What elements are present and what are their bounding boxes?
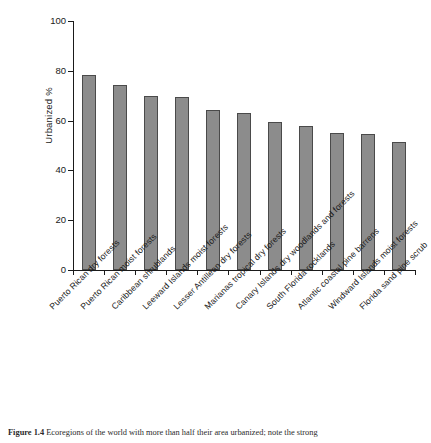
y-tick-label: 20	[36, 220, 66, 221]
x-tick-mark	[415, 271, 416, 275]
y-axis-title: Urbanized %	[43, 66, 54, 166]
y-tick-label: 60	[36, 121, 66, 122]
bar	[175, 97, 189, 270]
x-tick-mark	[353, 271, 354, 275]
caption-text: Ecoregions of the world with more than h…	[46, 428, 317, 437]
x-tick-mark	[135, 271, 136, 275]
x-tick-mark	[197, 271, 198, 275]
y-tick-label: 40	[36, 170, 66, 171]
x-tick-mark	[291, 271, 292, 275]
y-tick-label: 0	[36, 270, 66, 271]
caption-label: Figure 1.4	[8, 428, 44, 437]
x-tick-mark	[73, 271, 74, 275]
figure-container: Urbanized % 020406080100 Puerto Rican dr…	[0, 0, 431, 443]
bar	[82, 75, 96, 270]
x-tick-mark	[384, 271, 385, 275]
y-tick-label: 100	[36, 21, 66, 22]
x-tick-mark	[228, 271, 229, 275]
figure-caption: Figure 1.4 Ecoregions of the world with …	[8, 428, 428, 438]
x-tick-mark	[104, 271, 105, 275]
bar	[392, 142, 406, 270]
x-tick-mark	[260, 271, 261, 275]
x-tick-mark	[322, 271, 323, 275]
x-tick-mark	[166, 271, 167, 275]
y-tick-label: 80	[36, 71, 66, 72]
